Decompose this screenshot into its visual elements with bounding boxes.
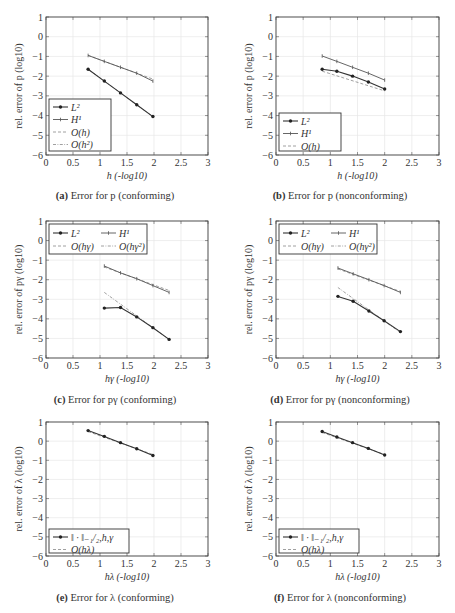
legend-entry: ‖ · ‖₋₁/₂,h,γ — [301, 532, 344, 543]
x-tick-label: 2.5 — [406, 558, 419, 569]
data-marker — [367, 447, 370, 450]
caption-a: (a) Error for p (conforming) — [0, 190, 230, 201]
caption-label: (e) — [56, 592, 68, 603]
legend-entry: O(hλ) — [301, 544, 325, 556]
caption-d: (d) Error for pγ (nonconforming) — [225, 394, 455, 405]
caption-text: Error for p (conforming) — [71, 190, 175, 201]
y-axis-label: rel. error of λ (log10) — [243, 446, 255, 531]
caption-text: Error for λ (nonconforming) — [287, 592, 406, 603]
caption-label: (d) — [270, 394, 283, 405]
data-marker — [351, 441, 354, 444]
x-tick-label: 1 — [328, 558, 333, 569]
caption-label: (a) — [56, 190, 68, 201]
caption-text: Error for pγ (conforming) — [68, 394, 176, 405]
x-tick-label: 3 — [437, 558, 442, 569]
y-tick-label: 0 — [268, 436, 273, 447]
y-tick-label: −1 — [262, 455, 273, 466]
caption-c: (c) Error for pγ (conforming) — [0, 394, 230, 405]
caption-b: (b) Error for p (nonconforming) — [225, 190, 455, 201]
x-tick-label: 1.5 — [351, 558, 364, 569]
y-tick-label: −5 — [262, 531, 273, 542]
data-marker — [383, 453, 386, 456]
caption-e: (e) Error for λ (conforming) — [0, 592, 230, 603]
caption-text: Error for p (nonconforming) — [288, 190, 407, 201]
caption-text: Error for λ (conforming) — [70, 592, 173, 603]
x-axis-label: hλ (-log10) — [335, 571, 380, 583]
chart-f: 00.511.522.5310−1−2−3−4−5−6hλ (-log10)re… — [0, 0, 455, 613]
x-tick-label: 0 — [274, 558, 279, 569]
legend: ‖ · ‖₋₁/₂,h,γO(hλ) — [279, 529, 359, 556]
y-tick-label: −4 — [262, 512, 273, 523]
plot-panel-f: 00.511.522.5310−1−2−3−4−5−6hλ (-log10)re… — [0, 0, 455, 613]
y-tick-label: −3 — [262, 493, 273, 504]
y-tick-label: −6 — [262, 551, 273, 562]
x-tick-label: 2 — [382, 558, 387, 569]
y-tick-label: −2 — [262, 474, 273, 485]
data-marker — [335, 435, 338, 438]
caption-label: (f) — [274, 592, 285, 603]
caption-label: (c) — [54, 394, 66, 405]
caption-text: Error for pγ (nonconforming) — [286, 394, 410, 405]
caption-label: (b) — [273, 190, 286, 201]
y-tick-label: 1 — [268, 417, 273, 428]
caption-f: (f) Error for λ (nonconforming) — [225, 592, 455, 603]
x-tick-label: 0.5 — [297, 558, 310, 569]
data-marker — [320, 430, 323, 433]
